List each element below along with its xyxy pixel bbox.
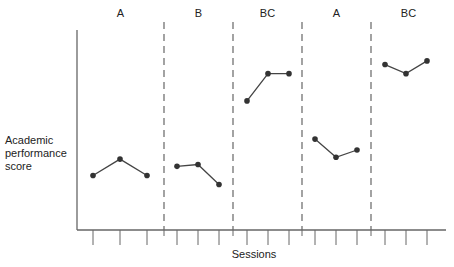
data-point	[312, 136, 318, 142]
phase-line	[177, 165, 219, 185]
data-point	[195, 162, 201, 168]
data-point	[265, 71, 271, 77]
data-lines	[93, 61, 427, 185]
data-point	[354, 147, 360, 153]
phase-line	[247, 74, 289, 101]
x-axis-label: Sessions	[232, 248, 277, 260]
data-point	[424, 58, 430, 64]
phase-label: A	[117, 7, 125, 19]
phase-label: A	[333, 7, 341, 19]
y-axis-label-line: score	[5, 160, 32, 172]
data-point	[216, 182, 222, 188]
data-point	[117, 156, 123, 162]
data-point	[174, 164, 180, 170]
phase-labels: ABBCABC	[117, 7, 416, 19]
single-case-design-chart: ABBCABC Sessions Academicperformancescor…	[0, 0, 454, 267]
data-point	[333, 154, 339, 160]
y-axis-label: Academicperformancescore	[5, 134, 67, 172]
x-ticks	[93, 230, 427, 245]
phase-label: BC	[260, 7, 275, 19]
axes	[77, 30, 446, 230]
data-point	[244, 98, 250, 104]
data-point	[90, 173, 96, 179]
phase-label: B	[195, 7, 202, 19]
y-axis-label-line: performance	[5, 147, 67, 159]
data-points	[90, 58, 430, 187]
data-point	[144, 173, 150, 179]
y-axis-label-line: Academic	[5, 134, 54, 146]
data-point	[382, 62, 388, 68]
phase-label: BC	[401, 7, 416, 19]
data-point	[286, 71, 292, 77]
data-point	[403, 71, 409, 77]
phase-dividers	[164, 22, 371, 230]
